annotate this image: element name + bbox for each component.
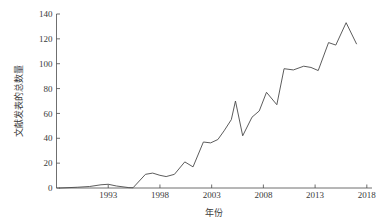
x-tick-label: 1998	[151, 190, 170, 200]
y-tick-label: 20	[44, 158, 54, 168]
y-tick-label: 140	[39, 9, 53, 19]
y-tick-label: 80	[44, 84, 54, 94]
x-tick-label: 1993	[99, 190, 118, 200]
x-tick-label: 2013	[306, 190, 325, 200]
x-axis-title: 年份	[205, 207, 223, 218]
x-tick-label: 2018	[358, 190, 377, 200]
data-line-series	[60, 23, 357, 188]
y-tick-labels: 020406080100120140	[39, 9, 53, 193]
x-tick-label: 2003	[203, 190, 222, 200]
x-tick-labels: 199319982003200820132018	[99, 190, 376, 200]
data-series-group	[60, 23, 357, 188]
y-tick-label: 120	[39, 34, 53, 44]
y-tick-label: 60	[44, 109, 54, 119]
y-tick-label: 100	[39, 59, 53, 69]
y-tick-label: 0	[48, 183, 53, 193]
y-tick-label: 40	[44, 133, 54, 143]
line-chart: 199319982003200820132018 020406080100120…	[0, 0, 378, 223]
x-tick-label: 2008	[254, 190, 273, 200]
y-axis-title: 文献发表的总数量	[13, 65, 24, 137]
figure-container: 199319982003200820132018 020406080100120…	[0, 0, 378, 223]
axes-group	[57, 14, 373, 188]
tick-marks-group	[57, 14, 367, 188]
